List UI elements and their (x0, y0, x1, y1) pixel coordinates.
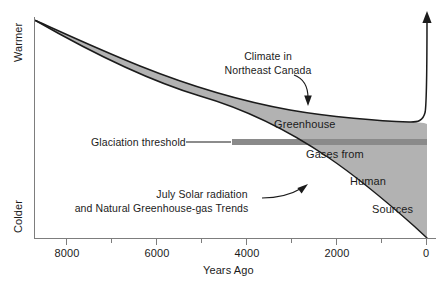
band-label-gases-from: Gases from (306, 148, 364, 162)
climate-curve-arrowhead (422, 11, 431, 23)
glaciation-threshold-bar (232, 139, 427, 145)
climate-annotation-arrow (294, 75, 308, 98)
y-axis-colder-label: Colder (12, 200, 26, 233)
x-tick-label-0: 0 (412, 247, 440, 261)
x-tick-label-8000: 8000 (48, 247, 86, 261)
x-tick-label-2000: 2000 (318, 247, 356, 261)
climate-annotation-line2: Northeast Canada (196, 64, 340, 77)
solar-annotation-line2: and Natural Greenhouse-gas Trends (61, 202, 262, 215)
climate-annotation-line1: Climate in (204, 50, 332, 63)
band-label-sources: Sources (372, 203, 413, 217)
chart-plot-area (0, 0, 444, 286)
chart-figure: Warmer Colder 8000 6000 4000 2000 0 Year… (0, 0, 444, 286)
band-label-greenhouse: Greenhouse (274, 118, 336, 132)
solar-annotation-arrow (262, 188, 302, 198)
band-label-human: Human (350, 175, 386, 189)
glaciation-threshold-label: Glaciation threshold (91, 136, 186, 149)
solar-annotation-arrowhead (297, 184, 308, 193)
x-tick-label-6000: 6000 (138, 247, 176, 261)
solar-annotation-line1: July Solar radiation (142, 188, 262, 201)
x-axis-title: Years Ago (203, 264, 254, 278)
climate-annotation-arrowhead (304, 96, 312, 107)
x-tick-label-4000: 4000 (228, 247, 266, 261)
y-axis-warmer-label: Warmer (12, 23, 26, 62)
